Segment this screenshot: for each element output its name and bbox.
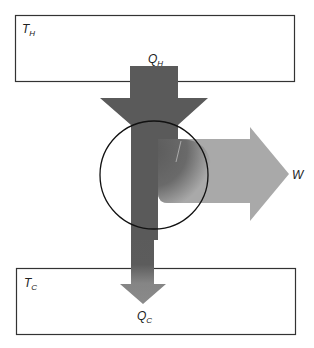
heat-engine-diagram: TH TC QH QC W (0, 0, 314, 348)
work-label: W (292, 168, 305, 182)
cold-reservoir-box (17, 269, 296, 335)
bend-corner (156, 139, 212, 203)
